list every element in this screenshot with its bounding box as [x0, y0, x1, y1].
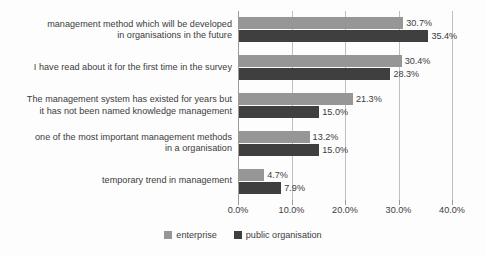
bar-group: 13.2%15.0% — [239, 124, 452, 162]
bar — [239, 182, 281, 194]
x-axis-tick-label: 20.0% — [332, 205, 358, 215]
category-axis-labels: management method which will be develope… — [6, 11, 232, 200]
bar-value-label: 15.0% — [322, 106, 348, 118]
category-label: temporary trend in management — [6, 175, 232, 186]
bar-value-label: 15.0% — [322, 144, 348, 156]
category-label: management method which will be develope… — [6, 19, 232, 42]
bar-chart: management method which will be develope… — [0, 0, 486, 256]
bar-value-label: 28.3% — [393, 68, 419, 80]
category-label: The management system has existed for ye… — [6, 94, 232, 117]
bar — [239, 131, 310, 143]
bar — [239, 169, 264, 181]
bar-value-label: 30.4% — [405, 55, 431, 67]
bar-value-label: 35.4% — [431, 30, 457, 42]
legend-entry[interactable]: enterprise — [164, 230, 216, 240]
bar — [239, 144, 319, 156]
bar — [239, 17, 403, 29]
x-axis-tick-label: 10.0% — [279, 205, 305, 215]
bar — [239, 55, 402, 67]
legend-entry[interactable]: public organisation — [234, 230, 322, 240]
bar — [239, 30, 428, 42]
legend-label: enterprise — [176, 230, 216, 240]
x-axis-tick-label: 30.0% — [386, 205, 412, 215]
legend-swatch-icon — [234, 231, 242, 239]
x-axis-tick-label: 0.0% — [228, 205, 249, 215]
bar-value-label: 21.3% — [356, 93, 382, 105]
bar — [239, 106, 319, 118]
chart-legend: enterprisepublic organisation — [0, 226, 486, 244]
category-label: I have read about it for the first time … — [6, 62, 232, 73]
bar-value-label: 13.2% — [313, 131, 339, 143]
bar-group: 30.7%35.4% — [239, 11, 452, 49]
bar-group: 4.7%7.9% — [239, 162, 452, 200]
category-label: one of the most important management met… — [6, 132, 232, 155]
plot-area: 30.7%35.4%30.4%28.3%21.3%15.0%13.2%15.0%… — [238, 11, 452, 200]
legend-label: public organisation — [246, 230, 322, 240]
bar — [239, 93, 353, 105]
bar — [239, 68, 390, 80]
legend-swatch-icon — [164, 231, 172, 239]
bar-value-label: 30.7% — [406, 17, 432, 29]
bar-value-label: 7.9% — [284, 182, 305, 194]
x-axis-tick-label: 40.0% — [439, 205, 465, 215]
bar-group: 21.3%15.0% — [239, 87, 452, 125]
bar-value-label: 4.7% — [267, 169, 288, 181]
x-axis-tick-labels: 0.0%10.0%20.0%30.0%40.0% — [238, 205, 452, 219]
bar-group: 30.4%28.3% — [239, 49, 452, 87]
